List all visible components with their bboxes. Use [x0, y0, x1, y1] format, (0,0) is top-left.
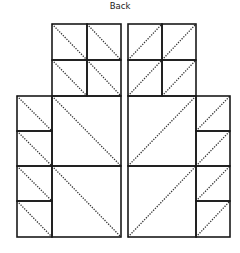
diagonal-fold-line — [196, 166, 230, 201]
large-square-piece — [52, 96, 121, 166]
diagonal-fold-line — [196, 96, 230, 131]
side-square-piece — [196, 166, 230, 201]
small-square-piece — [52, 24, 87, 60]
large-square-piece — [128, 166, 196, 237]
large-square-piece — [128, 96, 196, 166]
side-square-piece — [17, 131, 52, 166]
diagonal-fold-line — [52, 166, 121, 237]
small-square-piece — [52, 60, 87, 96]
diagonal-fold-line — [17, 201, 52, 237]
small-square-piece — [87, 24, 121, 60]
side-square-piece — [17, 96, 52, 131]
small-square-piece — [128, 60, 162, 96]
diagonal-fold-line — [52, 60, 87, 96]
diagonal-fold-line — [17, 131, 52, 166]
left-panel — [17, 24, 121, 237]
side-square-piece — [17, 201, 52, 237]
diagonal-fold-line — [52, 96, 121, 166]
right-panel — [128, 24, 230, 237]
diagonal-fold-line — [17, 166, 52, 201]
diagonal-fold-line — [162, 24, 196, 60]
side-square-piece — [196, 96, 230, 131]
small-square-piece — [128, 24, 162, 60]
large-square-piece — [52, 166, 121, 237]
diagonal-fold-line — [128, 166, 196, 237]
side-square-piece — [196, 131, 230, 166]
diagonal-fold-line — [87, 24, 121, 60]
diagonal-fold-line — [52, 24, 87, 60]
diagonal-fold-line — [17, 96, 52, 131]
diagonal-fold-line — [128, 60, 162, 96]
diagonal-fold-line — [128, 24, 162, 60]
small-square-piece — [162, 60, 196, 96]
quilt-diagram — [0, 0, 240, 253]
diagonal-fold-line — [128, 96, 196, 166]
small-square-piece — [162, 24, 196, 60]
side-square-piece — [196, 201, 230, 237]
diagonal-fold-line — [87, 60, 121, 96]
diagonal-fold-line — [196, 201, 230, 237]
small-square-piece — [87, 60, 121, 96]
diagonal-fold-line — [162, 60, 196, 96]
piece-outline — [128, 96, 196, 166]
side-square-piece — [17, 166, 52, 201]
diagonal-fold-line — [196, 131, 230, 166]
